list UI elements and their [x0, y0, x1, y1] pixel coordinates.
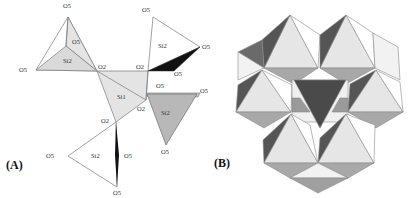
atom-label-o5: O5 [113, 189, 121, 196]
atom-label-o5: O5 [46, 152, 54, 159]
panel-a-structure [36, 17, 200, 187]
atom-label-o5: O5 [142, 6, 150, 13]
panel-label-b: (B) [214, 156, 230, 170]
si2-tetrahedron-right [147, 94, 197, 145]
atom-label-o5: O5 [124, 152, 132, 159]
atom-label-o5: O5 [19, 66, 27, 73]
atom-label-si2: Si2 [161, 109, 170, 116]
atom-label-o5: O5 [202, 43, 210, 50]
atom-label-si2: Si2 [63, 57, 72, 64]
atom-label-si2: Si2 [158, 42, 167, 49]
figure-canvas: O5 O5 Si2 O5 O2 O2 O5 Si2 O5 O5 O5 O5 Si… [0, 0, 408, 198]
atom-label-o5: O5 [72, 38, 80, 45]
panel-b-polyhedra [236, 15, 403, 193]
octahedron-face-mid [290, 178, 348, 193]
atom-label-o5: O5 [156, 82, 164, 89]
atom-label-o2: O2 [137, 105, 145, 112]
atom-label-o2: O2 [98, 63, 106, 70]
atom-label-o5: O5 [174, 70, 182, 77]
atom-label-si2: Si2 [91, 152, 100, 159]
atom-label-o5: O5 [200, 87, 208, 94]
panel-label-a: (A) [6, 158, 23, 172]
atom-label-o2: O2 [101, 117, 109, 124]
atom-label-o5: O5 [161, 148, 169, 155]
atom-label-o2: O2 [136, 63, 144, 70]
atom-label-o5: O5 [63, 2, 71, 9]
atom-label-si1: Si1 [117, 93, 126, 100]
